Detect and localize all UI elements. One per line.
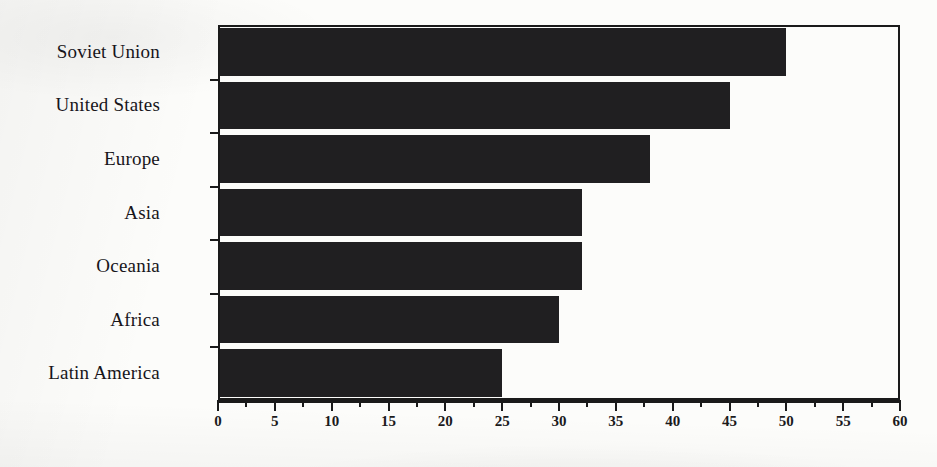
x-axis-tick-minor bbox=[871, 402, 873, 407]
y-axis-tick bbox=[210, 239, 219, 241]
category-label: United States bbox=[56, 94, 160, 116]
x-axis-tick-major bbox=[501, 402, 503, 411]
x-axis-tick-major bbox=[558, 402, 560, 411]
category-label: Latin America bbox=[48, 362, 160, 384]
x-axis-tick-major bbox=[331, 402, 333, 411]
y-axis-tick bbox=[210, 132, 219, 134]
x-axis-tick-minor bbox=[416, 402, 418, 407]
x-axis-tick-major bbox=[672, 402, 674, 411]
x-axis-tick-minor bbox=[530, 402, 532, 407]
x-axis-tick-major bbox=[615, 402, 617, 411]
x-axis-tick-label: 50 bbox=[779, 413, 794, 430]
x-axis-tick-minor bbox=[302, 402, 304, 407]
category-label: Soviet Union bbox=[57, 41, 160, 63]
x-axis-tick-major bbox=[899, 402, 901, 411]
x-axis-tick-label: 10 bbox=[324, 413, 339, 430]
x-axis-tick-label: 35 bbox=[608, 413, 623, 430]
y-axis-tick bbox=[210, 186, 219, 188]
x-axis-tick-label: 60 bbox=[893, 413, 908, 430]
x-axis-tick-label: 30 bbox=[552, 413, 567, 430]
x-axis-tick-major bbox=[444, 402, 446, 411]
category-label: Asia bbox=[124, 202, 160, 224]
y-axis-tick bbox=[210, 346, 219, 348]
x-axis-tick-minor bbox=[473, 402, 475, 407]
x-axis-tick-major bbox=[729, 402, 731, 411]
x-axis-tick-minor bbox=[643, 402, 645, 407]
y-axis-tick bbox=[210, 79, 219, 81]
x-axis-tick-major bbox=[785, 402, 787, 411]
x-axis-tick-label: 40 bbox=[665, 413, 680, 430]
x-axis-tick-label: 0 bbox=[214, 413, 222, 430]
x-axis-tick-minor bbox=[700, 402, 702, 407]
x-axis-tick-label: 5 bbox=[271, 413, 279, 430]
x-axis-tick-minor bbox=[245, 402, 247, 407]
category-label: Europe bbox=[104, 148, 160, 170]
x-axis-tick-label: 45 bbox=[722, 413, 737, 430]
x-axis-tick-label: 55 bbox=[836, 413, 851, 430]
x-axis-tick-major bbox=[842, 402, 844, 411]
x-axis-tick-minor bbox=[359, 402, 361, 407]
y-axis-tick bbox=[210, 293, 219, 295]
x-axis-tick-label: 15 bbox=[381, 413, 396, 430]
category-labels: Soviet UnionUnited StatesEuropeAsiaOcean… bbox=[0, 25, 196, 400]
x-axis-tick-minor bbox=[757, 402, 759, 407]
category-label: Africa bbox=[110, 309, 160, 331]
x-axis-tick-minor bbox=[586, 402, 588, 407]
x-axis-tick-minor bbox=[814, 402, 816, 407]
plot-frame bbox=[218, 25, 900, 400]
x-axis-tick-label: 25 bbox=[495, 413, 510, 430]
bar-chart-figure: Soviet UnionUnited StatesEuropeAsiaOcean… bbox=[0, 0, 937, 467]
x-axis-tick-major bbox=[217, 402, 219, 411]
x-axis-tick-label: 20 bbox=[438, 413, 453, 430]
category-label: Oceania bbox=[96, 255, 160, 277]
x-axis-tick-major bbox=[388, 402, 390, 411]
x-axis-tick-major bbox=[274, 402, 276, 411]
